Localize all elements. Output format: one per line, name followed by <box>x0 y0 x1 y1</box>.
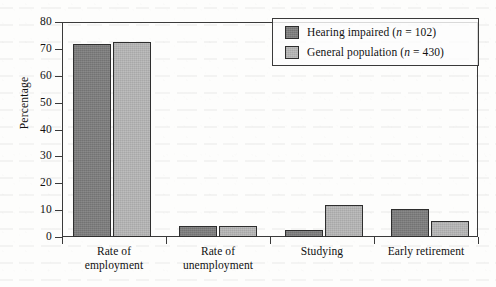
x-tick-mark-3 <box>374 237 375 244</box>
bar-unemployment-hearing-impaired <box>179 226 217 237</box>
x-tick-mark-1 <box>166 237 167 244</box>
x-axis-label-rate-of-unemployment: Rate of unemployment <box>166 245 270 272</box>
legend-label-prefix: General population ( <box>307 46 404 58</box>
y-tick-label-0: 0 <box>8 231 52 242</box>
x-tick-mark-2 <box>270 237 271 244</box>
y-tick-mark-20 <box>55 183 62 184</box>
y-tick-mark-60 <box>55 76 62 77</box>
x-axis-label-line1: Early retirement <box>388 245 465 257</box>
bar-employment-hearing-impaired <box>73 44 111 238</box>
x-axis-label-line2: unemployment <box>166 259 270 273</box>
bar-studying-hearing-impaired <box>285 230 323 237</box>
legend-label-prefix: Hearing impaired ( <box>307 26 396 38</box>
legend-swatch-general-population <box>285 46 299 59</box>
y-tick-label-80: 80 <box>8 16 52 27</box>
y-tick-label-70: 70 <box>8 43 52 54</box>
y-tick-label-60: 60 <box>8 70 52 81</box>
y-tick-mark-10 <box>55 210 62 211</box>
x-tick-mark-left-edge <box>62 237 63 244</box>
legend-item-hearing-impaired: Hearing impaired (n = 102) <box>285 24 436 40</box>
y-tick-mark-70 <box>55 49 62 50</box>
y-tick-mark-80 <box>55 22 62 23</box>
bar-studying-general-population <box>325 205 363 237</box>
legend-swatch-hearing-impaired <box>285 26 299 39</box>
y-tick-mark-50 <box>55 103 62 104</box>
y-tick-label-30: 30 <box>8 150 52 161</box>
x-axis-label-line2: employment <box>62 259 166 273</box>
bar-employment-general-population <box>113 42 151 237</box>
bar-unemployment-general-population <box>219 226 257 237</box>
legend-label-general-population: General population (n = 430) <box>307 46 444 59</box>
legend-label-suffix: = 430) <box>410 46 444 58</box>
legend-label-suffix: = 102) <box>402 26 436 38</box>
x-tick-mark-right-edge <box>478 237 479 244</box>
x-axis-label-line1: Studying <box>301 245 343 257</box>
y-tick-mark-0 <box>55 237 62 238</box>
x-axis-label-line1: Rate of <box>201 245 235 257</box>
chart-figure: Percentage 80 70 60 50 40 30 20 10 0 <box>0 0 496 287</box>
x-axis-label-line1: Rate of <box>97 245 131 257</box>
bar-early-retirement-general-population <box>431 221 469 237</box>
chart-legend: Hearing impaired (n = 102) General popul… <box>272 18 479 66</box>
legend-label-hearing-impaired: Hearing impaired (n = 102) <box>307 26 436 39</box>
y-tick-label-20: 20 <box>8 177 52 188</box>
legend-item-general-population: General population (n = 430) <box>285 44 444 60</box>
x-axis-label-rate-of-employment: Rate of employment <box>62 245 166 272</box>
bar-early-retirement-hearing-impaired <box>391 209 429 237</box>
y-tick-mark-30 <box>55 156 62 157</box>
y-tick-label-50: 50 <box>8 97 52 108</box>
y-tick-label-40: 40 <box>8 124 52 135</box>
y-tick-label-10: 10 <box>8 204 52 215</box>
x-axis-label-studying: Studying <box>270 245 374 259</box>
y-tick-mark-40 <box>55 130 62 131</box>
x-axis-label-early-retirement: Early retirement <box>374 245 478 259</box>
